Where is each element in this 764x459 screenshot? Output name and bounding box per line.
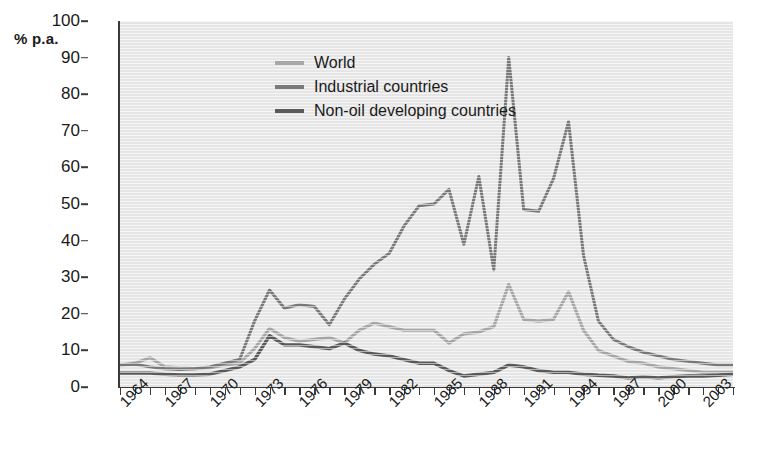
y-axis-tick-label: 30 xyxy=(61,267,80,287)
y-axis-tick-label: 90 xyxy=(61,48,80,68)
x-axis-tick-mark xyxy=(598,388,599,395)
x-axis-tick-mark xyxy=(419,388,420,395)
y-axis-tick-label: 70 xyxy=(61,121,80,141)
series-line-world xyxy=(120,285,733,373)
x-axis-tick-mark xyxy=(284,388,285,395)
legend-item[interactable]: Non-oil developing countries xyxy=(275,99,575,123)
y-axis-tick-mark xyxy=(81,130,88,132)
y-axis-tick-mark xyxy=(81,276,88,278)
series-line-non-oil-developing-countries xyxy=(120,336,733,378)
legend-item-label: Industrial countries xyxy=(314,78,448,96)
y-axis-tick-mark xyxy=(81,93,88,95)
y-axis-tick-mark xyxy=(81,57,88,59)
y-axis-tick-mark xyxy=(81,203,88,205)
x-axis-tick-mark xyxy=(374,388,375,395)
y-axis-tick-mark xyxy=(81,313,88,315)
x-axis-tick-mark xyxy=(733,388,734,395)
legend-item-label: World xyxy=(314,54,356,72)
y-axis-tick-label: 10 xyxy=(61,340,80,360)
legend-swatch-nonoil xyxy=(275,109,304,113)
y-axis-tick-mark xyxy=(81,167,88,169)
legend-item[interactable]: Industrial countries xyxy=(275,75,575,99)
x-axis-tick-mark xyxy=(509,388,510,395)
y-axis-tick-label: 60 xyxy=(61,157,80,177)
legend-item[interactable]: World xyxy=(275,51,575,75)
plot-area: WorldIndustrial countriesNon-oil develop… xyxy=(120,21,733,387)
y-axis-tick-mark xyxy=(81,350,88,352)
x-axis-tick-mark xyxy=(643,388,644,395)
chart-figure: % p.a. 0102030405060708090100 WorldIndus… xyxy=(0,0,764,459)
chart-legend: WorldIndustrial countriesNon-oil develop… xyxy=(275,51,575,123)
x-axis-tick-mark xyxy=(195,388,196,395)
y-axis-tick-label: 0 xyxy=(71,377,80,397)
x-axis-tick-mark xyxy=(464,388,465,395)
y-axis-tick-mark xyxy=(81,386,88,388)
x-axis-tick-mark xyxy=(329,388,330,395)
y-axis-tick-label: 40 xyxy=(61,231,80,251)
y-axis-tick-label: 100 xyxy=(52,11,80,31)
y-axis-tick-label: 20 xyxy=(61,304,80,324)
y-axis-tick-mark xyxy=(81,20,88,22)
legend-swatch-industrial xyxy=(275,85,304,89)
x-axis-tick-mark xyxy=(240,388,241,395)
y-axis-tick-labels: 0102030405060708090100 xyxy=(0,0,112,408)
y-axis-tick-label: 80 xyxy=(61,84,80,104)
legend-item-label: Non-oil developing countries xyxy=(314,102,516,120)
x-axis-tick-mark xyxy=(554,388,555,395)
legend-swatch-world xyxy=(275,61,304,65)
x-axis-tick-mark xyxy=(688,388,689,395)
y-axis-tick-label: 50 xyxy=(61,194,80,214)
y-axis-tick-mark xyxy=(81,240,88,242)
x-axis-tick-mark xyxy=(150,388,151,395)
